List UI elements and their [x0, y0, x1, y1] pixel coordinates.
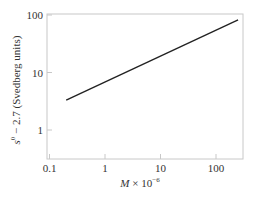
chart: 0.1110100 110100 M × 10−6 s0 − 2.7 (Sved… [0, 0, 256, 200]
x-axis-label: M × 10−6 [119, 176, 160, 189]
y-axis: 110100 [27, 9, 53, 136]
x-tick-label: 100 [208, 162, 225, 174]
x-axis: 0.1110100 [43, 154, 225, 174]
x-tick-label: 0.1 [43, 162, 57, 174]
data-line [66, 20, 238, 100]
x-tick-label: 10 [155, 162, 167, 174]
y-tick-label: 1 [38, 124, 44, 136]
y-tick-label: 100 [27, 9, 44, 21]
y-axis-label: s0 − 2.7 (Svedberg units) [9, 35, 23, 144]
y-tick-label: 10 [32, 67, 44, 79]
plot-frame [47, 14, 243, 159]
x-tick-label: 1 [102, 162, 108, 174]
